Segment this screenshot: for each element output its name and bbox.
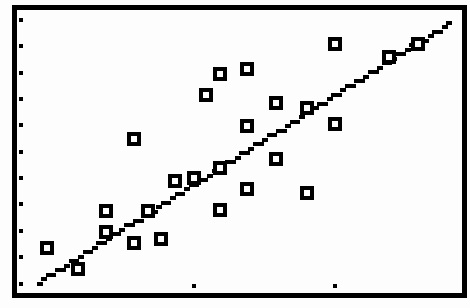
regression-line-pixel <box>446 21 452 25</box>
regression-line-pixel <box>340 88 346 92</box>
data-point-marker <box>127 132 141 146</box>
regression-line-pixel <box>248 147 254 151</box>
regression-line-pixel <box>78 255 84 259</box>
frame-left <box>12 5 17 298</box>
data-point-marker <box>382 50 396 64</box>
regression-line-pixel <box>129 223 135 227</box>
data-point-marker <box>213 67 227 81</box>
regression-line-pixel <box>101 241 107 245</box>
regression-line-pixel <box>138 219 144 223</box>
regression-line-pixel <box>285 124 291 128</box>
y-tick-mark <box>19 255 23 259</box>
regression-line-pixel <box>170 196 176 200</box>
y-tick-mark <box>19 229 23 233</box>
regression-line-pixel <box>207 174 213 178</box>
x-tick-mark <box>333 284 337 288</box>
data-point-marker <box>411 37 425 51</box>
data-point-marker <box>240 119 254 133</box>
regression-line-pixel <box>235 156 241 160</box>
y-tick-mark <box>19 97 23 101</box>
y-tick-mark <box>19 150 23 154</box>
regression-line-pixel <box>271 133 277 137</box>
regression-line-pixel <box>400 52 406 56</box>
regression-line-pixel <box>92 246 98 250</box>
y-tick-mark <box>19 202 23 206</box>
data-point-marker <box>269 96 283 110</box>
data-point-marker <box>187 171 201 185</box>
regression-line-pixel <box>60 268 66 272</box>
y-tick-mark <box>19 44 23 48</box>
regression-line-pixel <box>41 277 47 281</box>
frame-bottom <box>12 293 467 298</box>
regression-line-pixel <box>87 250 93 254</box>
frame-top <box>12 5 467 10</box>
regression-line-pixel <box>179 192 185 196</box>
y-tick-mark <box>19 71 23 75</box>
regression-line-pixel <box>202 178 208 182</box>
regression-line-pixel <box>184 187 190 191</box>
y-tick-mark <box>19 282 23 286</box>
data-point-marker <box>127 236 141 250</box>
regression-line-pixel <box>119 228 125 232</box>
data-point-marker <box>269 152 283 166</box>
data-point-marker <box>71 262 85 276</box>
regression-line-pixel <box>299 115 305 119</box>
x-tick-mark <box>192 284 196 288</box>
regression-line-pixel <box>428 34 434 38</box>
regression-line-pixel <box>115 232 121 236</box>
data-point-marker <box>300 186 314 200</box>
frame-right <box>462 5 467 298</box>
regression-line-pixel <box>359 79 365 83</box>
calculator-graph-screen <box>0 0 470 308</box>
data-point-marker <box>168 174 182 188</box>
regression-line-pixel <box>37 282 43 286</box>
regression-line-pixel <box>230 160 236 164</box>
data-point-marker <box>300 101 314 115</box>
regression-line-pixel <box>64 264 70 268</box>
regression-line-pixel <box>437 30 443 34</box>
data-point-marker <box>213 161 227 175</box>
regression-line-pixel <box>50 273 56 277</box>
regression-line-pixel <box>244 151 250 155</box>
regression-line-pixel <box>350 84 356 88</box>
data-point-marker <box>99 225 113 239</box>
data-point-marker <box>328 37 342 51</box>
y-tick-mark <box>19 176 23 180</box>
data-point-marker <box>99 204 113 218</box>
scatter-plot <box>0 0 470 308</box>
y-tick-mark <box>19 18 23 22</box>
regression-line-pixel <box>336 93 342 97</box>
regression-line-pixel <box>262 138 268 142</box>
regression-line-pixel <box>156 205 162 209</box>
regression-line-pixel <box>281 129 287 133</box>
y-tick-mark <box>19 123 23 127</box>
data-point-marker <box>328 117 342 131</box>
regression-line-pixel <box>294 120 300 124</box>
data-point-marker <box>154 232 168 246</box>
data-point-marker <box>240 62 254 76</box>
data-point-marker <box>213 203 227 217</box>
data-point-marker <box>199 88 213 102</box>
regression-line-pixel <box>327 97 333 101</box>
data-point-marker <box>240 182 254 196</box>
regression-line-pixel <box>442 25 448 29</box>
regression-line-pixel <box>405 48 411 52</box>
regression-line-pixel <box>373 70 379 74</box>
data-point-marker <box>141 204 155 218</box>
data-point-marker <box>40 241 54 255</box>
regression-line-pixel <box>363 75 369 79</box>
regression-line-pixel <box>377 66 383 70</box>
regression-line-pixel <box>165 201 171 205</box>
regression-line-pixel <box>322 102 328 106</box>
regression-line-pixel <box>258 142 264 146</box>
